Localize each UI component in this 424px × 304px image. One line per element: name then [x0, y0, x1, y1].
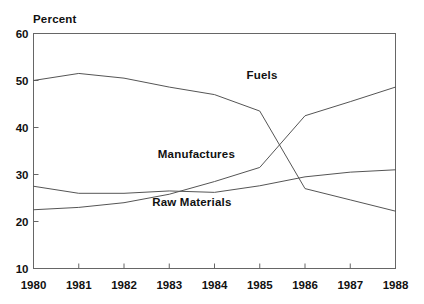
series-line-fuels: [34, 73, 396, 211]
y-tick-label: 10: [3, 263, 29, 275]
series-label-raw-materials: Raw Materials: [152, 196, 231, 209]
chart-figure: Percent 102030405060 1980198119821983198…: [0, 0, 424, 304]
y-tick-label: 50: [3, 75, 29, 87]
x-tick-label: 1984: [193, 279, 237, 291]
x-tick-label: 1980: [12, 279, 56, 291]
chart-series-lines: [34, 73, 396, 211]
x-tick-label: 1982: [102, 279, 146, 291]
x-tick-label: 1987: [328, 279, 372, 291]
series-label-manufactures: Manufactures: [158, 148, 235, 161]
y-tick-label: 30: [3, 169, 29, 181]
y-tick-label: 60: [3, 28, 29, 40]
y-tick-label: 20: [3, 216, 29, 228]
y-tick-label: 40: [3, 122, 29, 134]
x-tick-label: 1983: [147, 279, 191, 291]
x-tick-label: 1981: [57, 279, 101, 291]
series-label-fuels: Fuels: [246, 69, 277, 82]
x-tick-label: 1985: [238, 279, 282, 291]
x-tick-label: 1988: [374, 279, 418, 291]
x-tick-label: 1986: [283, 279, 327, 291]
